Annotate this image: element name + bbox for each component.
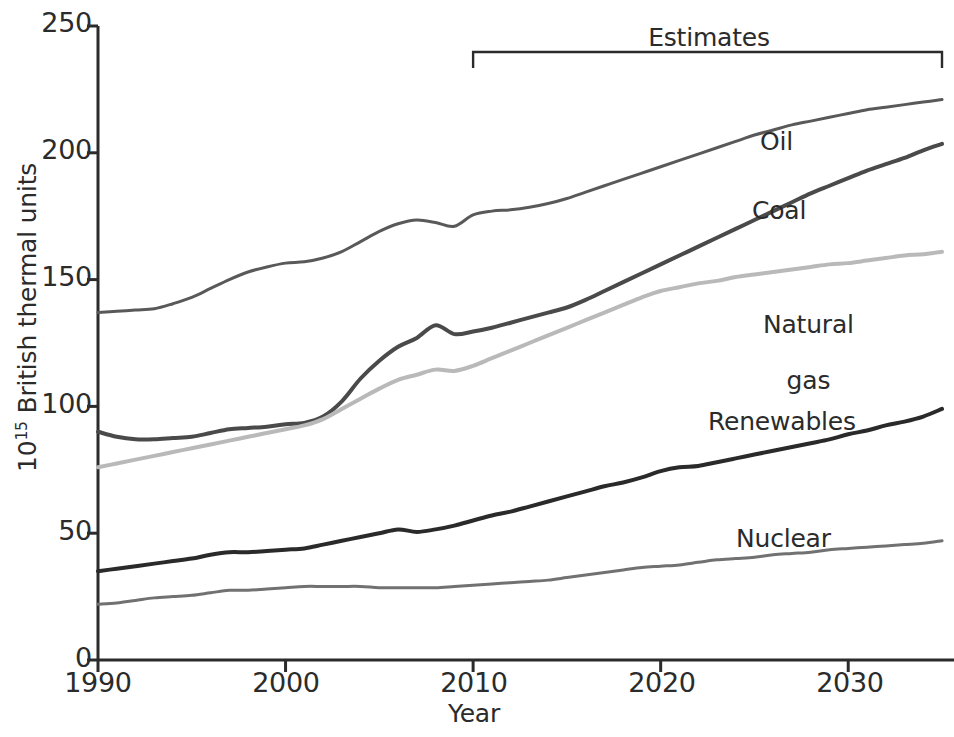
series-label-natural-gas: Natural gas: [732, 283, 854, 423]
series-label-coal: Coal: [752, 197, 806, 225]
y-axis-title-suffix: British thermal units: [13, 163, 42, 421]
y-tick-label-250: 250: [20, 8, 92, 38]
y-tick-label-50: 50: [20, 516, 92, 546]
series-label-renewables: Renewables: [708, 408, 856, 436]
x-tick-label-2000: 2000: [236, 668, 336, 698]
y-axis-title-prefix: 10: [13, 441, 42, 472]
series-label-oil: Oil: [760, 128, 793, 156]
series-label-natural-gas-line1: Natural: [763, 310, 854, 339]
estimates-bracket: [473, 52, 942, 68]
y-tick-label-200: 200: [20, 135, 92, 165]
x-tick-label-2020: 2020: [612, 668, 712, 698]
series-label-natural-gas-line2: gas: [787, 366, 831, 395]
x-tick-label-2030: 2030: [800, 668, 900, 698]
y-axis-title: 1015 British thermal units: [14, 163, 42, 472]
series-label-nuclear: Nuclear: [736, 525, 831, 553]
x-axis-title: Year: [420, 700, 528, 728]
x-tick-label-1990: 1990: [48, 668, 148, 698]
series-line-oil: [98, 100, 942, 313]
chart-figure: 0 50 100 150 200 250 1990 2000 2010 2020…: [0, 0, 954, 737]
y-axis-title-exponent: 15: [13, 421, 31, 440]
x-tick-label-2010: 2010: [424, 668, 524, 698]
estimates-label: Estimates: [609, 24, 809, 52]
